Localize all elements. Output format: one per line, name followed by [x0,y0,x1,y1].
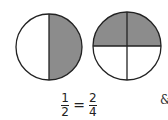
numerator: 2 [89,93,97,104]
fraction-right: 2 4 [89,93,97,118]
equation: 1 2 = 2 4 [58,90,100,120]
fraction-left: 1 2 [61,93,69,118]
denominator: 2 [61,107,69,118]
denominator: 4 [89,107,97,118]
numerator: 1 [61,93,69,104]
circle-halves [16,14,82,80]
circle-quarters [93,12,161,80]
equals-sign: = [73,97,85,113]
shaded-half [49,14,82,80]
edge-glyph: & [160,93,168,107]
